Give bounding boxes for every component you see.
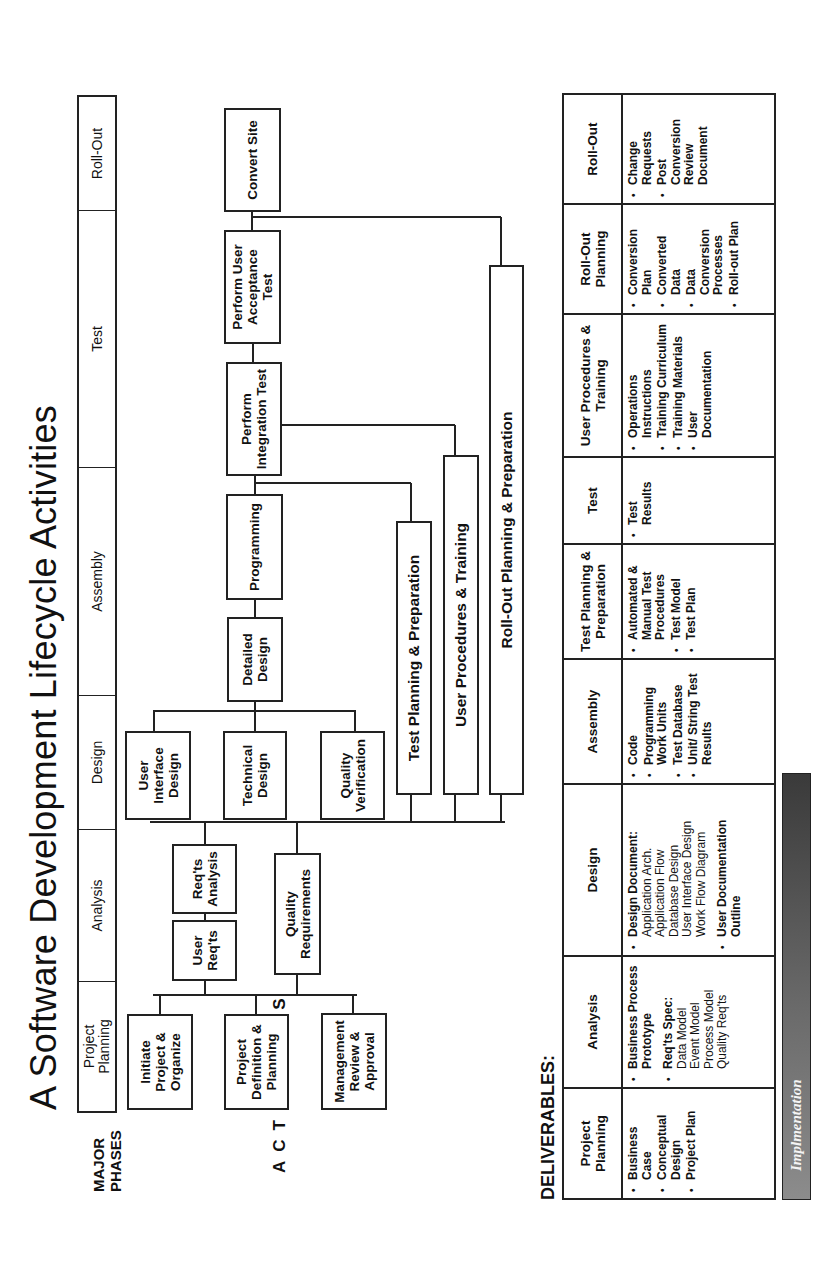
phase-roll-out: Roll-Out — [79, 97, 115, 210]
connector-line — [204, 823, 206, 844]
deliverables-cell: Business CaseConceptual DesignProject Pl… — [622, 1088, 775, 1199]
activity-test-planning: Test Planning & Preparation — [396, 521, 432, 795]
activity-technical-design: Technical Design — [223, 731, 287, 820]
deliverables-body-row: Business CaseConceptual DesignProject Pl… — [622, 94, 775, 1199]
deliverable-item: Design Document:Application Arch.Applica… — [627, 791, 708, 937]
activity-integration-test: Perform Integration Test — [226, 362, 282, 476]
connector-line — [500, 795, 502, 823]
activity-programming: Programming — [226, 494, 283, 600]
deliverable-item: User Documentation — [687, 321, 714, 438]
deliverables-list: Design Document:Application Arch.Applica… — [627, 791, 743, 949]
implementation-label: Implmentation — [788, 1079, 805, 1171]
deliverable-item-text: User Documentation Outline — [715, 820, 743, 937]
connector-line — [454, 425, 456, 455]
activity-quality-requirements: Quality Requirements — [274, 853, 321, 975]
major-phases-label-line2: PHASES — [107, 1116, 124, 1192]
deliverables-list: Operations InstructionsTraining Curricul… — [627, 321, 714, 450]
deliverables-table: Project Planning Analysis Design Assembl… — [562, 93, 776, 1200]
deliverables-header: Test Planning & Preparation — [563, 544, 622, 659]
major-phases-bar: ProjectPlanning Analysis Design Assembly… — [77, 95, 117, 1113]
deliverables-header: Roll-Out — [563, 94, 622, 204]
activity-detailed-design: Detailed Design — [227, 617, 283, 702]
deliverable-item-text: Design Document: — [626, 831, 640, 937]
phase-project-planning: ProjectPlanning — [79, 981, 115, 1111]
deliverable-item-text: Conversion Plan — [626, 229, 654, 295]
deliverable-item-text: Change Requests — [626, 131, 654, 185]
connector-line — [204, 981, 206, 996]
deliverable-item: Conversion Plan — [627, 211, 654, 295]
deliverables-cell: Design Document:Application Arch.Applica… — [622, 784, 775, 956]
deliverable-item-text: User Documentation — [686, 351, 714, 438]
deliverables-list: Business CaseConceptual DesignProject Pl… — [627, 1095, 699, 1192]
connector-line — [354, 712, 356, 731]
deliverable-item-text: Post Conversion Review Document — [655, 119, 710, 185]
deliverable-item: Post Conversion Review Document — [656, 101, 710, 185]
deliverable-item: Business Case — [627, 1095, 654, 1180]
connector-line — [254, 600, 256, 617]
deliverable-item: Code — [627, 666, 641, 765]
activity-user-procedures: User Procedures & Training — [443, 455, 479, 795]
connector-line — [410, 483, 412, 521]
connector-line — [296, 823, 298, 853]
deliverable-item-text: Converted Data — [655, 236, 683, 295]
implementation-bar: Implmentation — [782, 773, 811, 1200]
activity-rollout-planning: Roll-Out Planning & Preparation — [489, 265, 524, 795]
deliverable-item-text: Operations Instructions — [626, 369, 654, 438]
deliverable-item-text: Business Case — [626, 1127, 654, 1180]
deliverables-list: Conversion PlanConverted DataData Conver… — [627, 211, 741, 307]
deliverable-subitem: User Interface Design — [681, 791, 695, 937]
deliverables-list: Business Process PrototypeReq'ts Spec:Da… — [627, 963, 730, 1081]
deliverables-cell: CodeProgramming Work UnitsTest DatabaseU… — [622, 659, 775, 784]
deliverable-item-text: Training Curriculum — [655, 324, 669, 438]
phase-label: Planning — [97, 1019, 112, 1074]
deliverable-item-text: Project Plan — [684, 1111, 698, 1180]
deliverable-item: User Documentation Outline — [716, 791, 743, 937]
deliverables-header: Design — [563, 784, 622, 956]
deliverable-subitem: Database Design — [668, 791, 682, 937]
deliverable-subitem: Application Arch. — [641, 791, 655, 937]
activity-project-definition: Project Definition & Planning — [224, 1014, 289, 1110]
deliverable-item: Training Curriculum — [656, 321, 670, 438]
deliverable-item-text: Programming Work Units — [642, 687, 670, 765]
deliverable-item-text: Test Results — [626, 482, 654, 525]
connector-line — [454, 795, 456, 823]
deliverables-header: Analysis — [563, 956, 622, 1088]
phase-label: Design — [90, 741, 105, 785]
deliverable-item-text: Training Materials — [671, 336, 685, 438]
activity-user-acceptance-test: Perform User Acceptance Test — [224, 230, 281, 344]
deliverable-item-text: Req'ts Spec: — [661, 997, 675, 1069]
phase-label: Analysis — [90, 879, 105, 931]
connector-line — [251, 216, 501, 218]
deliverables-list: Test Results — [627, 464, 654, 537]
deliverable-item: Programming Work Units — [643, 666, 670, 765]
phase-label: Roll-Out — [90, 128, 105, 179]
phase-label: Assembly — [90, 551, 105, 612]
deliverables-label: DELIVERABLES: — [538, 1055, 559, 1200]
major-phases-label: MAJOR PHASES — [90, 1116, 124, 1192]
deliverables-header: Test — [563, 457, 622, 544]
deliverable-item: Test Plan — [685, 551, 699, 640]
activity-convert-site: Convert Site — [224, 108, 281, 212]
connector-line — [254, 702, 256, 731]
phase-analysis: Analysis — [79, 829, 115, 981]
deliverable-item: Test Database — [672, 666, 686, 765]
activity-reqts-analysis: Req'ts Analysis — [172, 844, 237, 914]
connector-line — [254, 476, 256, 494]
deliverables-cell: Conversion PlanConverted DataData Conver… — [622, 204, 775, 314]
deliverables-cell: Automated & Manual Test ProceduresTest M… — [622, 544, 775, 659]
deliverable-subitem: Application Flow — [654, 791, 668, 937]
connector-line — [251, 212, 253, 230]
deliverable-item: Training Materials — [672, 321, 686, 438]
connector-line — [159, 996, 161, 1014]
deliverable-item: Operations Instructions — [627, 321, 654, 438]
deliverable-item-text: Conceptual Design — [655, 1115, 683, 1180]
connector-line — [500, 217, 502, 265]
activity-quality-verification: Quality Verification — [320, 731, 385, 820]
deliverable-item: Unit/ String Test Results — [687, 666, 714, 765]
deliverable-item: Automated & Manual Test Procedures — [627, 551, 668, 640]
connector-line — [410, 795, 412, 823]
phase-label: Project — [82, 1019, 97, 1074]
deliverables-list: CodeProgramming Work UnitsTest DatabaseU… — [627, 666, 714, 777]
phase-test: Test — [79, 210, 115, 467]
connector-line — [153, 712, 155, 731]
